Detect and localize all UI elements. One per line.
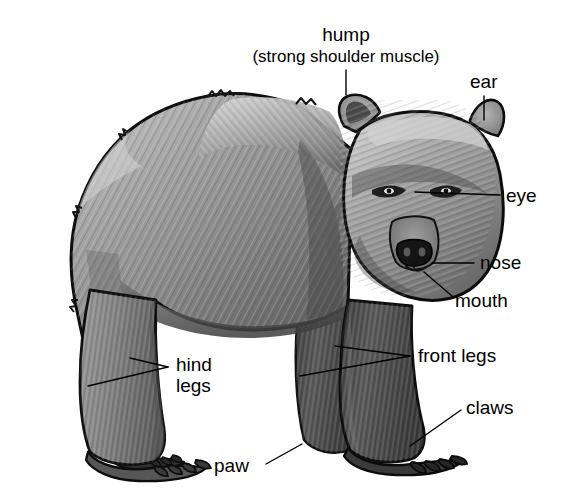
label-paw: paw: [214, 455, 249, 476]
label-front-legs: front legs: [418, 345, 496, 366]
label-eye: eye: [506, 185, 537, 206]
label-hump-line2: (strong shoulder muscle): [252, 47, 439, 66]
label-mouth: mouth: [455, 290, 508, 311]
label-nose: nose: [480, 252, 521, 273]
label-ear: ear: [470, 71, 498, 92]
label-hump: hump: [322, 24, 370, 45]
bear-anatomy-diagram: hump(strong shoulder muscle)eareyenosemo…: [0, 0, 563, 494]
label-hind-legs: hind: [176, 354, 212, 375]
label-hind-legs-line2: legs: [176, 375, 211, 396]
label-claws: claws: [466, 397, 514, 418]
